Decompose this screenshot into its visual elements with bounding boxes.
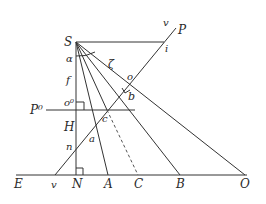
geometry-diagram: S P v i ζ o b α f o⁰ P⁰ c H a n E v N A … [0,0,266,204]
label-A: A [103,177,113,191]
label-B: B [175,177,185,191]
ray-s-o [76,42,245,175]
label-P: P [177,23,187,37]
label-i: i [165,43,168,54]
label-o: o [127,71,133,82]
label-N: N [71,177,83,191]
label-o0: o⁰ [64,97,74,108]
label-b: b [128,90,135,103]
right-angle-marker-o0 [76,102,84,110]
label-alpha: α [66,53,73,64]
label-P0: P⁰ [29,103,43,117]
label-a: a [89,133,95,144]
label-C: C [134,177,143,191]
label-zeta: ζ [108,58,115,71]
label-v-top: v [163,17,169,28]
label-n: n [66,141,72,152]
dashed-line-c-C [107,110,138,175]
label-v-bottom: v [51,179,57,190]
label-f: f [65,74,72,87]
label-O: O [240,177,250,191]
label-c: c [102,113,108,124]
label-E: E [13,177,23,191]
right-angle-marker-n [76,168,83,175]
label-H: H [63,120,75,134]
label-S: S [64,35,72,49]
